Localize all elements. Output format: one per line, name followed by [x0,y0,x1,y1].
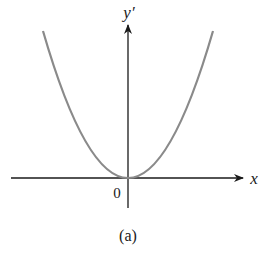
x-axis-label: x [249,169,258,188]
y-axis-label: y′ [121,3,135,22]
origin-label: 0 [113,185,121,201]
derivative-graph: y′ x 0 (a) [0,0,268,257]
figure-caption: (a) [119,227,137,245]
